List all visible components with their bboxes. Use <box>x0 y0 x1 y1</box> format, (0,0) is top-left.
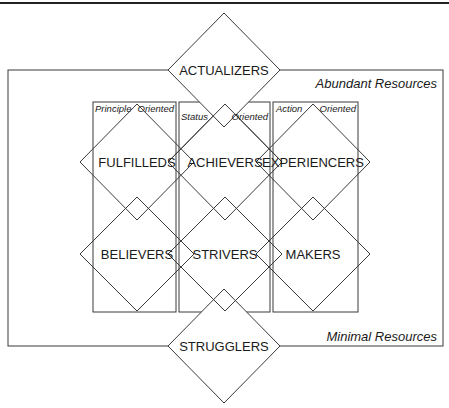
fulfilleds-label: FULFILLEDS <box>98 155 176 170</box>
status-oriented-label: Oriented <box>232 111 269 122</box>
overlap-lines <box>168 104 282 311</box>
status-label: Status <box>181 111 208 122</box>
principle-label: Principle <box>95 103 131 114</box>
abundant-resources-label: Abundant Resources <box>315 76 438 91</box>
action-label: Action <box>275 103 302 114</box>
actualizers-label: ACTUALIZERS <box>179 63 269 78</box>
achievers-label: ACHIEVERS <box>187 155 262 170</box>
principle-oriented-box <box>93 102 176 312</box>
makers-label: MAKERS <box>286 247 341 262</box>
action-oriented-label: Oriented <box>320 103 357 114</box>
action-oriented-box <box>273 102 358 312</box>
strivers-label: STRIVERS <box>192 247 257 262</box>
believers-label: BELIEVERS <box>101 247 174 262</box>
vals-diagram: Abundant Resources Minimal Resources Pri… <box>0 0 449 408</box>
status-oriented-box <box>179 102 270 312</box>
minimal-resources-label: Minimal Resources <box>326 329 437 344</box>
strugglers-label: STRUGGLERS <box>179 339 269 354</box>
experiencers-label: EXPERIENCERS <box>262 155 364 170</box>
principle-oriented-label: Oriented <box>138 103 175 114</box>
diamond-grid-lines <box>80 104 370 311</box>
